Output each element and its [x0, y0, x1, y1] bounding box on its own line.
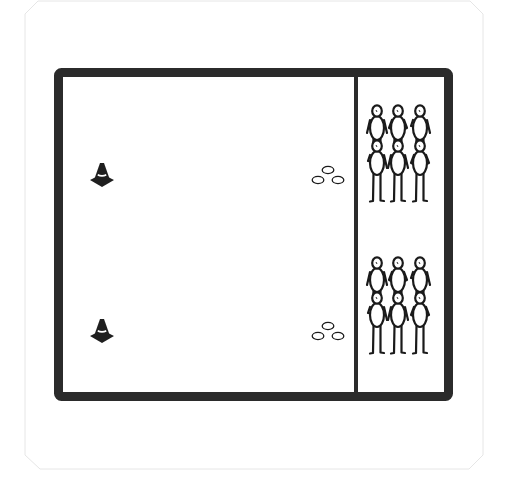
diagram-card: [0, 0, 508, 481]
drill-diagram: [0, 0, 508, 481]
playing-field: [59, 73, 449, 397]
field-boundary: [59, 73, 449, 397]
